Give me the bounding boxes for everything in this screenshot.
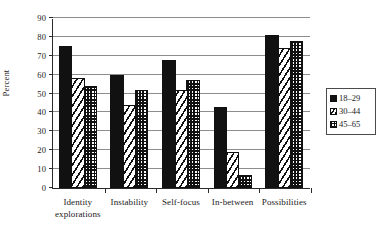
x-axis-tick-mark — [259, 188, 260, 193]
gridline — [53, 17, 310, 18]
y-axis-tick-label: 80 — [24, 33, 46, 42]
x-axis-tick-mark — [105, 188, 106, 193]
y-axis-tick-mark — [49, 187, 53, 188]
y-axis-tick-mark — [49, 168, 53, 169]
bar-chart: Percent 0102030405060708090 Identityexpl… — [0, 0, 385, 239]
bar — [59, 46, 73, 188]
bar — [110, 75, 124, 188]
y-axis-tick-label: 70 — [24, 52, 46, 61]
bar — [214, 107, 228, 188]
y-axis-tick-mark — [49, 130, 53, 131]
y-axis-tick-label: 90 — [24, 14, 46, 23]
y-axis-tick-mark — [49, 36, 53, 37]
bar — [265, 35, 279, 188]
y-axis-tick-mark — [49, 55, 53, 56]
bar — [226, 152, 240, 188]
legend-swatch-icon — [330, 108, 337, 115]
y-axis-tick-mark — [49, 74, 53, 75]
legend-swatch-icon — [330, 121, 337, 128]
legend-item-label: 45–65 — [339, 120, 360, 129]
bar — [174, 90, 188, 188]
bar — [238, 175, 252, 188]
x-axis-category-label-line: Possibilities — [249, 197, 319, 209]
plot-area — [52, 19, 310, 189]
y-axis-tick-label: 40 — [24, 108, 46, 117]
bar — [186, 80, 200, 188]
y-axis-tick-label: 0 — [24, 184, 46, 193]
bar — [135, 90, 149, 188]
bar — [277, 48, 291, 188]
y-axis-tick-mark — [49, 93, 53, 94]
y-axis-tick-mark — [49, 149, 53, 150]
bar — [71, 78, 85, 188]
legend-item-label: 18–29 — [339, 94, 360, 103]
y-axis-tick-label: 60 — [24, 71, 46, 80]
y-axis-tick-label: 10 — [24, 165, 46, 174]
y-axis-title: Percent — [1, 53, 15, 113]
legend-item-label: 30–44 — [339, 107, 360, 116]
bar — [83, 86, 97, 188]
bar — [290, 41, 304, 188]
y-axis-tick-label: 20 — [24, 146, 46, 155]
legend-item[interactable]: 45–65 — [330, 118, 372, 131]
bar — [123, 105, 137, 188]
x-axis-tick-mark — [208, 188, 209, 193]
legend-item[interactable]: 18–29 — [330, 92, 372, 105]
y-axis-tick-label: 30 — [24, 127, 46, 136]
y-axis-tick-mark — [49, 17, 53, 18]
bar — [162, 60, 176, 188]
x-axis-tick-mark — [156, 188, 157, 193]
y-axis-tick-mark — [49, 111, 53, 112]
x-axis-tick-mark — [311, 188, 312, 193]
x-axis-category-label: Possibilities — [249, 197, 319, 209]
y-axis-tick-label: 50 — [24, 90, 46, 99]
legend: 18–2930–4445–65 — [326, 88, 376, 135]
legend-item[interactable]: 30–44 — [330, 105, 372, 118]
x-axis-category-label-line: explorations — [43, 209, 113, 221]
legend-swatch-icon — [330, 95, 337, 102]
